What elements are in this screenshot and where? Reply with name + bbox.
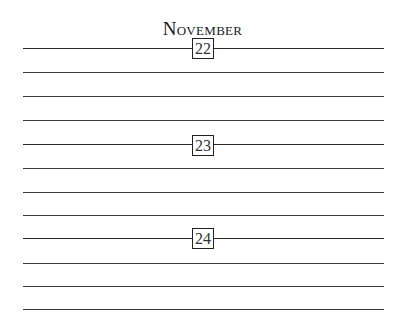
- writing-line: [23, 72, 384, 73]
- writing-line: [23, 96, 384, 97]
- day-24-badge: 24: [192, 228, 214, 249]
- day-23-badge: 23: [192, 135, 214, 156]
- month-title: November: [0, 18, 405, 40]
- writing-line: [23, 309, 384, 310]
- writing-line: [23, 168, 384, 169]
- writing-line: [23, 120, 384, 121]
- writing-line: [23, 263, 384, 264]
- writing-line: [23, 215, 384, 216]
- writing-line: [23, 286, 384, 287]
- day-22-badge: 22: [192, 38, 214, 59]
- writing-line: [23, 192, 384, 193]
